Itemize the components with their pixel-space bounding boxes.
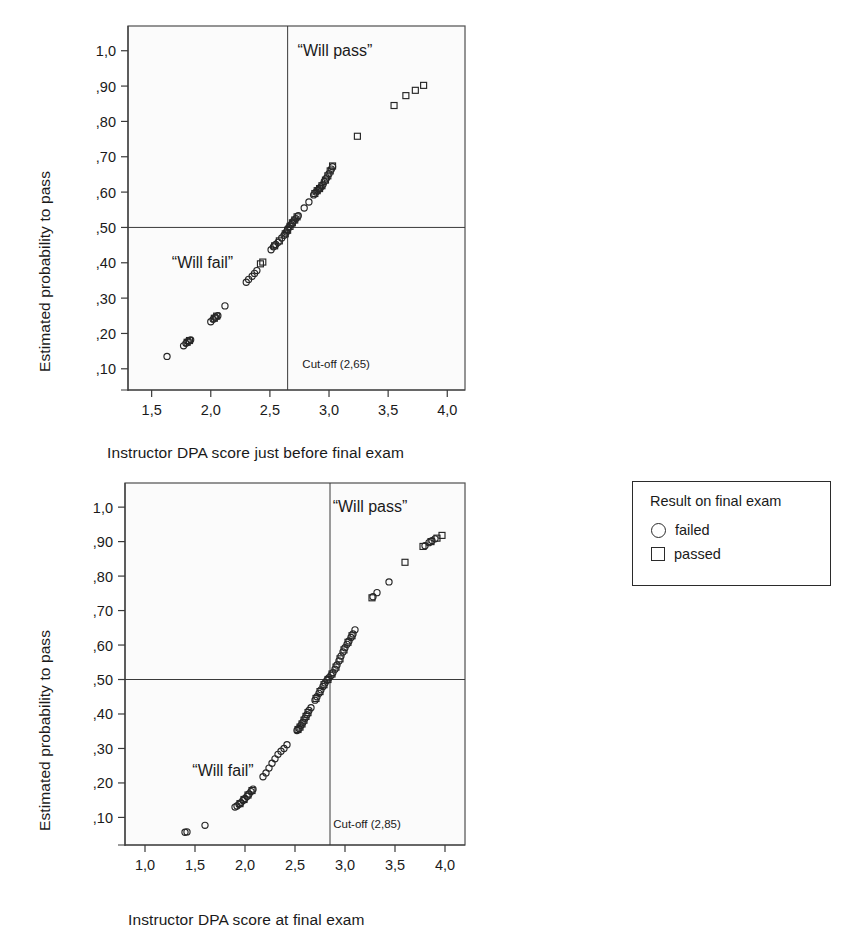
x-axis-tick-label: 2,0 [235, 857, 255, 873]
y-axis-tick-label: ,50 [96, 220, 116, 236]
y-axis-tick-label: ,90 [93, 534, 113, 550]
legend-item-failed-label: failed [675, 522, 710, 538]
y-axis-tick-label: ,90 [96, 79, 116, 95]
square-outline-icon [651, 547, 665, 561]
y-axis-tick-label: ,20 [93, 775, 113, 791]
x-axis-tick-label: 2,0 [201, 402, 221, 418]
chart-bottom: 1,0,90,80,70,60,50,40,30,20,101,01,52,02… [0, 455, 560, 939]
y-axis-tick-label: ,80 [93, 569, 113, 585]
y-axis-tick-label: ,50 [93, 672, 113, 688]
y-axis-tick-label: ,40 [93, 706, 113, 722]
y-axis-tick-label: ,20 [96, 326, 116, 342]
y-axis-tick-label: ,10 [93, 810, 113, 826]
x-axis-tick-label: 4,0 [435, 857, 455, 873]
legend-item-passed-label: passed [674, 546, 721, 562]
y-axis-tick-label: ,40 [96, 255, 116, 271]
y-axis-tick-label: ,80 [96, 114, 116, 130]
y-axis-title-bottom: Estimated probability to pass [36, 630, 54, 831]
x-axis-tick-label: 2,5 [260, 402, 280, 418]
y-axis-tick-label: ,70 [93, 603, 113, 619]
x-axis-tick-label: 3,5 [378, 402, 398, 418]
region-annotation: “Will fail” [172, 254, 233, 271]
legend-title: Result on final exam [650, 493, 830, 509]
y-axis-tick-label: ,30 [96, 291, 116, 307]
scatter-plot-bottom: 1,0,90,80,70,60,50,40,30,20,101,01,52,02… [0, 455, 560, 895]
plot-frame [128, 26, 465, 390]
x-axis-title-bottom: Instructor DPA score at final exam [128, 911, 365, 929]
x-axis-tick-label: 3,5 [385, 857, 405, 873]
x-axis-tick-label: 4,0 [437, 402, 457, 418]
x-axis-tick-label: 1,5 [142, 402, 162, 418]
circle-outline-icon [651, 523, 666, 538]
legend-item-passed: passed [650, 542, 830, 566]
y-axis-tick-label: ,70 [96, 149, 116, 165]
y-axis-tick-label: 1,0 [93, 500, 113, 516]
plot-frame [125, 483, 465, 845]
x-axis-tick-label: 1,5 [185, 857, 205, 873]
x-axis-tick-label: 3,0 [319, 402, 339, 418]
x-axis-tick-label: 2,5 [285, 857, 305, 873]
region-annotation: “Will pass” [298, 42, 373, 59]
y-axis-tick-label: ,10 [96, 361, 116, 377]
y-axis-title-top: Estimated probability to pass [36, 171, 54, 372]
y-axis-tick-label: ,60 [96, 185, 116, 201]
y-axis-tick-label: ,60 [93, 638, 113, 654]
chart-top: 1,0,90,80,70,60,50,40,30,20,101,52,02,53… [0, 0, 560, 470]
region-annotation: “Will pass” [333, 498, 408, 515]
y-axis-tick-label: ,30 [93, 741, 113, 757]
x-axis-tick-label: 3,0 [335, 857, 355, 873]
cutoff-annotation: Cut-off (2,65) [302, 358, 370, 370]
x-axis-tick-label: 1,0 [135, 857, 155, 873]
legend: Result on final exam failed passed [632, 481, 831, 586]
legend-item-failed: failed [650, 518, 830, 542]
cutoff-annotation: Cut-off (2,85) [333, 818, 401, 830]
y-axis-tick-label: 1,0 [96, 43, 116, 59]
region-annotation: “Will fail” [192, 762, 253, 779]
scatter-plot-top: 1,0,90,80,70,60,50,40,30,20,101,52,02,53… [0, 0, 560, 470]
